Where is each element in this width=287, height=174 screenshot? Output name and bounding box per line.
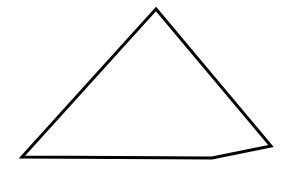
- diagram-canvas: [0, 0, 287, 174]
- quadrilateral-shape: [22, 9, 271, 158]
